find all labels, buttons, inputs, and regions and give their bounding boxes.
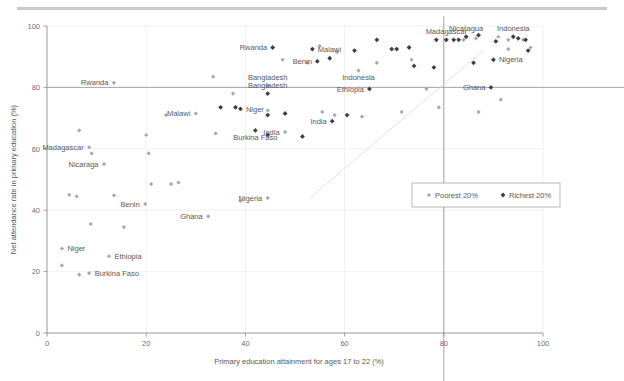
data-point-marker (231, 91, 235, 95)
data-point-marker (283, 111, 288, 116)
data-point-marker (310, 47, 315, 52)
y-tick-label-0: 0 (36, 329, 40, 338)
data-point-marker (122, 225, 126, 229)
figure-page: RwandaMalawiMadagascarNicaragaBeninGhana… (0, 0, 624, 381)
data-point-marker (471, 60, 476, 65)
axes-group (44, 26, 544, 337)
data-point-marker (493, 39, 498, 44)
data-point-marker (327, 56, 332, 61)
data-point-marker (90, 151, 94, 155)
point-label-rwanda: Rwanda (81, 78, 109, 87)
data-point-marker (526, 48, 531, 53)
legend-group[interactable]: Poorest 20%Richest 20% (412, 183, 560, 207)
data-point-marker (330, 119, 335, 124)
data-point-marker (333, 113, 337, 117)
point-label-ethiopia: Ethiopia (115, 252, 143, 261)
y-tick-label-80: 80 (32, 83, 40, 92)
data-point-marker (356, 68, 360, 72)
x-axis-title: Primary education attainment for ages 17… (214, 357, 384, 366)
data-point-marker (176, 180, 180, 184)
x-tick-label-80: 80 (440, 339, 448, 348)
data-point-marker (444, 37, 449, 42)
point-label-nicaraga: Nicaraga (69, 160, 100, 169)
data-point-marker (300, 134, 305, 139)
legend-label-poorest-20[interactable]: Poorest 20% (435, 191, 478, 200)
data-point-marker (67, 193, 71, 197)
data-point-marker (281, 58, 285, 62)
data-point-marker (360, 114, 364, 118)
scatter-chart: RwandaMalawiMadagascarNicaragaBeninGhana… (0, 0, 624, 381)
data-point-marker (75, 194, 79, 198)
data-point-marker (102, 162, 106, 166)
point-labels-group: RwandaMalawiMadagascarNicaragaBeninGhana… (42, 24, 530, 278)
x-tick-label-100: 100 (537, 339, 550, 348)
data-point-marker (266, 196, 270, 200)
data-point-marker (206, 214, 210, 218)
y-tick-label-60: 60 (32, 145, 40, 154)
x-tick-label-20: 20 (142, 339, 150, 348)
point-label-niger: Niger (67, 244, 85, 253)
data-point-marker (107, 254, 111, 258)
data-point-marker (143, 202, 147, 206)
data-point-marker (434, 37, 439, 42)
x-tick-label-40: 40 (241, 339, 249, 348)
data-point-marker (345, 113, 350, 118)
data-point-marker (77, 273, 81, 277)
data-point-marker (265, 91, 270, 96)
y-axis-title: Net attendance rate in primary education… (9, 104, 18, 254)
y-tick-label-100: 100 (27, 22, 40, 31)
data-point-marker (194, 111, 198, 115)
data-point-marker (352, 48, 357, 53)
data-point-marker (451, 37, 456, 42)
data-point-marker (389, 47, 394, 52)
point-label-ghana: Ghana (180, 212, 203, 221)
data-point-marker (431, 65, 436, 70)
y-tick-label-40: 40 (32, 206, 40, 215)
point-label-indonesia: Indonesia (497, 24, 530, 33)
point-label-malawi: Malawi (167, 109, 191, 118)
data-point-marker (506, 38, 510, 42)
data-point-marker (511, 34, 516, 39)
data-point-marker (265, 113, 270, 118)
point-label-ethiopia: Ethiopia (337, 85, 365, 94)
data-point-marker (211, 75, 215, 79)
data-point-marker (233, 105, 238, 110)
data-point-marker (270, 45, 275, 50)
point-label-burkina-faso: Burkina Faso (233, 133, 277, 142)
data-point-marker (214, 131, 218, 135)
data-point-marker (375, 61, 379, 65)
gridlines-group (47, 26, 543, 333)
point-label-niger: Niger (246, 105, 264, 114)
data-point-marker (456, 37, 461, 42)
data-point-marker (149, 182, 153, 186)
point-label-nigeria: Nigeria (499, 55, 524, 64)
data-point-marker (529, 45, 533, 49)
point-label-benin: Benin (293, 57, 312, 66)
point-label-malawi: Malawi (318, 45, 342, 54)
point-label-rwanda: Rwanda (240, 43, 268, 52)
data-point-marker (238, 106, 243, 111)
data-point-marker (476, 110, 480, 114)
legend-label-richest-20[interactable]: Richest 20% (509, 191, 551, 200)
data-point-marker (374, 37, 379, 42)
point-label-indonesia: Indonesia (342, 73, 375, 82)
x-tick-label-60: 60 (340, 339, 348, 348)
data-point-marker (499, 98, 503, 102)
data-point-marker (283, 130, 287, 134)
data-point-marker (320, 110, 324, 114)
data-point-marker (169, 182, 173, 186)
point-label-nicaragua: Nicaragua (449, 24, 484, 33)
data-point-marker (462, 38, 466, 42)
data-point-marker (437, 105, 441, 109)
data-point-marker (112, 193, 116, 197)
point-label-ghana: Ghana (463, 83, 486, 92)
data-point-marker (144, 133, 148, 137)
data-point-marker (409, 58, 413, 62)
point-label-nigeria: Nigeria (238, 194, 263, 203)
data-point-marker (523, 37, 528, 42)
plot-svg: RwandaMalawiMadagascarNicaragaBeninGhana… (0, 0, 624, 381)
data-point-marker (407, 45, 412, 50)
data-point-marker (476, 33, 481, 38)
data-point-marker (491, 57, 496, 62)
data-point-marker (60, 263, 64, 267)
